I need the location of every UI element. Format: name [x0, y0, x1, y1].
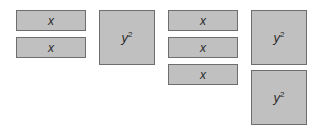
x-tile: x — [168, 37, 238, 58]
y-squared-tile: y2 — [99, 10, 155, 65]
x-tile-label: x — [200, 68, 206, 82]
x-tile: x — [16, 10, 86, 31]
y-squared-label: y2 — [274, 30, 285, 45]
x-tile-label: x — [48, 41, 54, 55]
y-squared-label: y2 — [122, 30, 133, 45]
x-tile-label: x — [48, 14, 54, 28]
x-tile-label: x — [200, 14, 206, 28]
y-squared-tile: y2 — [251, 70, 307, 125]
x-tile: x — [16, 37, 86, 58]
y-squared-label: y2 — [274, 90, 285, 105]
x-tile-label: x — [200, 41, 206, 55]
x-tile: x — [168, 64, 238, 85]
y-squared-tile: y2 — [251, 10, 307, 65]
x-tile: x — [168, 10, 238, 31]
